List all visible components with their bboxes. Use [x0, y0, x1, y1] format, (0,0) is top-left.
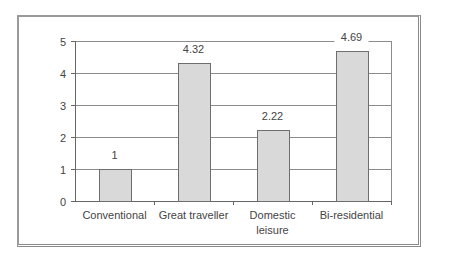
bar-great-traveller	[179, 64, 211, 202]
category-label: Bi-residential	[320, 209, 384, 221]
y-tick-label: 5	[60, 36, 66, 48]
category-label: Great traveller	[159, 209, 229, 221]
category-label: Domestic	[250, 209, 296, 221]
category-label: Conventional	[82, 209, 146, 221]
bar-domestic-leisure	[258, 131, 290, 202]
category-label: leisure	[256, 224, 288, 236]
value-label: 2.22	[262, 110, 283, 122]
value-label: 4.32	[183, 43, 204, 55]
y-tick-label: 3	[60, 100, 66, 112]
value-label: 1	[111, 149, 117, 161]
y-tick-label: 2	[60, 132, 66, 144]
bar-conventional	[100, 170, 132, 202]
y-tick-label: 1	[60, 164, 66, 176]
y-tick-label: 0	[60, 196, 66, 208]
bar-bi-residential	[337, 52, 369, 202]
value-label: 4.69	[341, 31, 362, 43]
y-tick-label: 4	[60, 68, 66, 80]
bar-chart: 0123451Conventional4.32Great traveller2.…	[0, 0, 451, 260]
